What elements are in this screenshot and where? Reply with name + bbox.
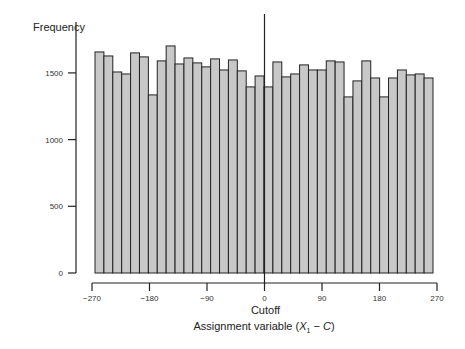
histogram-bar bbox=[139, 57, 148, 273]
histogram-bar bbox=[380, 97, 389, 273]
histogram-bar bbox=[326, 61, 335, 273]
histogram-bar bbox=[122, 74, 131, 273]
histogram-bar bbox=[264, 87, 273, 273]
histogram-bar bbox=[113, 72, 122, 273]
histogram-bar bbox=[273, 62, 282, 273]
histogram-bar bbox=[415, 74, 424, 273]
y-tick-label: 1000 bbox=[45, 136, 63, 145]
histogram-bar bbox=[131, 53, 140, 273]
histogram-bar bbox=[157, 61, 166, 273]
y-tick-label: 1500 bbox=[45, 69, 63, 78]
histogram-bar bbox=[228, 60, 237, 273]
x-tick-label: −180 bbox=[140, 294, 159, 303]
histogram-bar bbox=[255, 76, 264, 273]
histogram-bar bbox=[371, 78, 380, 273]
histogram-bar bbox=[335, 62, 344, 273]
x-tick-label: 270 bbox=[430, 294, 444, 303]
histogram-bar bbox=[353, 81, 362, 273]
histogram-bar bbox=[300, 65, 309, 273]
y-tick-label: 0 bbox=[59, 269, 64, 278]
histogram-bar bbox=[104, 56, 113, 273]
histogram-bar bbox=[95, 52, 104, 273]
y-axis: 050010001500 bbox=[45, 22, 76, 278]
histogram-bar bbox=[175, 64, 184, 273]
histogram-bar bbox=[317, 70, 326, 273]
y-tick-label: 500 bbox=[50, 202, 64, 211]
histogram-bar bbox=[406, 75, 415, 273]
histogram-chart: 050010001500 −270−180−90090180270 Freque… bbox=[0, 0, 465, 349]
histogram-bar bbox=[282, 77, 291, 273]
histogram-bar bbox=[362, 61, 371, 273]
x-axis: −270−180−90090180270 bbox=[83, 283, 444, 303]
histogram-bar bbox=[308, 70, 317, 273]
histogram-bar bbox=[193, 63, 202, 273]
x-tick-label: 90 bbox=[318, 294, 327, 303]
histogram-bar bbox=[424, 78, 433, 273]
x-tick-label: 180 bbox=[373, 294, 387, 303]
y-axis-title: Frequency bbox=[33, 21, 85, 33]
x-axis-title: Assignment variable (X1 − C) bbox=[193, 320, 334, 334]
histogram-bar bbox=[397, 70, 406, 273]
histogram-bar bbox=[202, 67, 211, 273]
histogram-bar bbox=[211, 59, 220, 273]
x-tick-label: 0 bbox=[262, 294, 267, 303]
histogram-bar bbox=[389, 78, 398, 273]
x-tick-label: −270 bbox=[83, 294, 102, 303]
histogram-bar bbox=[148, 95, 157, 273]
histogram-bar bbox=[220, 70, 229, 273]
histogram-bar bbox=[291, 74, 300, 273]
cutoff-label: Cutoff bbox=[251, 304, 281, 316]
histogram-bar bbox=[237, 71, 246, 273]
histogram-bar bbox=[344, 97, 353, 273]
histogram-bar bbox=[246, 87, 255, 273]
x-tick-label: −90 bbox=[200, 294, 214, 303]
histogram-bar bbox=[166, 46, 175, 273]
histogram-bar bbox=[184, 58, 193, 273]
